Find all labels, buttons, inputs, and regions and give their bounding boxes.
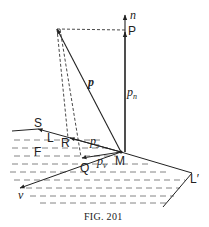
label-p: p bbox=[88, 76, 94, 88]
label-v: v bbox=[18, 189, 23, 201]
label-p-n: pn bbox=[127, 86, 137, 101]
label-n: n bbox=[130, 9, 136, 21]
label-R: R bbox=[61, 137, 70, 149]
label-F: F bbox=[34, 146, 41, 158]
label-p-s: ps bbox=[90, 135, 99, 150]
label-S: S bbox=[34, 117, 42, 129]
label-Q: Q bbox=[80, 162, 89, 174]
label-p-v-sub: v bbox=[103, 161, 107, 170]
label-p-n-sub: n bbox=[133, 92, 137, 101]
label-L-prime: L′ bbox=[190, 173, 199, 185]
label-p-v: pv bbox=[97, 155, 107, 170]
label-p-s-sub: s bbox=[96, 141, 99, 150]
vector-p bbox=[57, 29, 121, 152]
diagram-canvas bbox=[0, 0, 209, 227]
label-L: L bbox=[47, 132, 54, 144]
figure-caption: FIG. 201 bbox=[84, 212, 123, 222]
figure-201: n P p pn S L R ps F Q pv M v L′ FIG. 201 bbox=[0, 0, 209, 227]
label-M: M bbox=[115, 155, 125, 167]
label-P: P bbox=[128, 25, 136, 37]
